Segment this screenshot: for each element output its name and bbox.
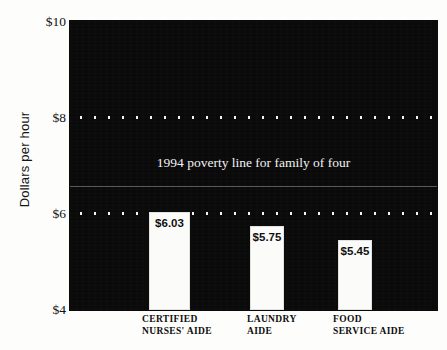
y-tick-label-10: $10	[28, 15, 66, 29]
category-label-line1: CERTIFIED	[142, 314, 212, 326]
y-tick-label-8: $8	[28, 111, 66, 125]
poverty-line-solid	[70, 186, 437, 187]
category-label-line2: AIDE	[247, 326, 297, 338]
bar-value-label-1: $6.03	[150, 217, 189, 229]
category-label-line2: SERVICE AIDE	[333, 326, 405, 338]
bar-food-service-aide[interactable]: $5.45	[338, 240, 372, 310]
bar-certified-nurses-aide[interactable]: $6.03	[149, 212, 190, 310]
bar-chart-figure: Dollars per hour $10 $8 $6 $4 1994 pover…	[0, 0, 447, 350]
poverty-line-caption: 1994 poverty line for family of four	[70, 155, 437, 171]
bar-laundry-aide[interactable]: $5.75	[250, 226, 284, 310]
category-label-line2: NURSES' AIDE	[142, 326, 212, 338]
category-label-certified-nurses-aide: CERTIFIED NURSES' AIDE	[142, 314, 212, 337]
category-label-line1: LAUNDRY	[247, 314, 297, 326]
gridline-dotted-8	[70, 116, 437, 119]
category-label-line1: FOOD	[333, 314, 405, 326]
category-label-laundry-aide: LAUNDRY AIDE	[247, 314, 297, 337]
gridline-dotted-6	[70, 212, 437, 215]
y-tick-label-6: $6	[28, 207, 66, 221]
y-tick-label-4: $4	[28, 303, 66, 317]
plot-area: 1994 poverty line for family of four $6.…	[70, 21, 437, 310]
y-axis-tick-labels: $10 $8 $6 $4	[26, 0, 66, 350]
bar-value-label-2: $5.75	[251, 231, 283, 243]
category-label-food-service-aide: FOOD SERVICE AIDE	[333, 314, 405, 337]
bar-value-label-3: $5.45	[339, 245, 371, 257]
